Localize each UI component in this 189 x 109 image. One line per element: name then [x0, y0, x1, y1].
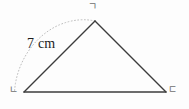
- vertex-label-apex: ㄱ: [88, 2, 97, 12]
- geometry-figure: ㄱ ㄴ ㄷ 7 cm: [0, 0, 189, 109]
- vertex-label-bottom-right: ㄷ: [168, 85, 177, 95]
- side-length-label: 7 cm: [27, 36, 55, 51]
- vertex-label-bottom-left: ㄴ: [9, 85, 18, 95]
- triangle-drawing: [0, 0, 189, 109]
